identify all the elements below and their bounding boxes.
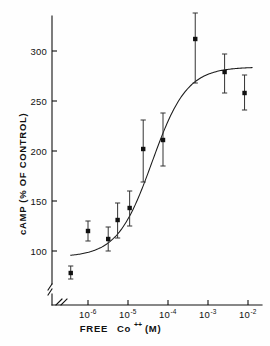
x-axis-title-ion: Co — [117, 323, 131, 334]
data-point-marker — [106, 237, 110, 241]
data-point-marker — [193, 37, 197, 41]
axes-group — [48, 16, 262, 305]
data-point — [127, 191, 132, 226]
data-point-marker — [242, 91, 246, 95]
y-tick-label: 150 — [31, 196, 47, 207]
y-tick-label: 300 — [31, 46, 47, 57]
x-tick-label-mantissa: 10 — [119, 309, 130, 320]
x-tick-label-exponent: -6 — [91, 308, 97, 315]
data-point-marker — [69, 271, 73, 275]
y-tick-label: 100 — [31, 246, 47, 257]
data-point-marker — [161, 138, 165, 142]
data-point-marker — [222, 70, 226, 74]
data-point — [160, 113, 165, 166]
data-point — [193, 13, 198, 83]
figure-container: 100150200250300 10-610-510-410-310-2 FRE… — [0, 0, 270, 346]
chart-canvas: 100150200250300 10-610-510-410-310-2 FRE… — [0, 0, 270, 346]
x-tick-label-mantissa: 10 — [199, 309, 210, 320]
data-point-marker — [141, 147, 145, 151]
x-tick-label-exponent: -3 — [211, 308, 217, 315]
x-tick-label-exponent: -2 — [251, 308, 257, 315]
data-point — [115, 203, 120, 238]
data-point — [68, 266, 73, 279]
x-tick-label-exponent: -5 — [131, 308, 137, 315]
data-point — [85, 221, 90, 241]
y-tick-label: 250 — [31, 96, 47, 107]
x-axis-ticks: 10-610-510-410-310-2 — [79, 300, 257, 320]
data-point — [141, 120, 146, 182]
x-axis-title: FREE Co ++ (M) — [80, 321, 161, 334]
axis-break-mark — [48, 284, 67, 305]
x-tick-label-mantissa: 10 — [79, 309, 90, 320]
y-tick-label: 200 — [31, 146, 47, 157]
x-axis-title-units: (M) — [145, 323, 161, 334]
x-tick-label-mantissa: 10 — [239, 309, 250, 320]
x-axis-title-pre: FREE — [80, 323, 108, 334]
data-point — [106, 227, 111, 251]
data-point-marker — [86, 229, 90, 233]
fitted-curve — [70, 68, 252, 256]
x-axis-title-charge: ++ — [134, 321, 142, 328]
y-axis-ticks: 100150200250300 — [31, 46, 57, 257]
x-tick-label-mantissa: 10 — [159, 309, 170, 320]
data-point-marker — [115, 218, 119, 222]
x-tick-label-exponent: -4 — [171, 308, 177, 315]
data-point — [242, 75, 247, 110]
y-axis-title: cAMP (% OF CONTROL) — [17, 113, 28, 235]
data-point — [222, 54, 227, 93]
data-point-marker — [127, 206, 131, 210]
